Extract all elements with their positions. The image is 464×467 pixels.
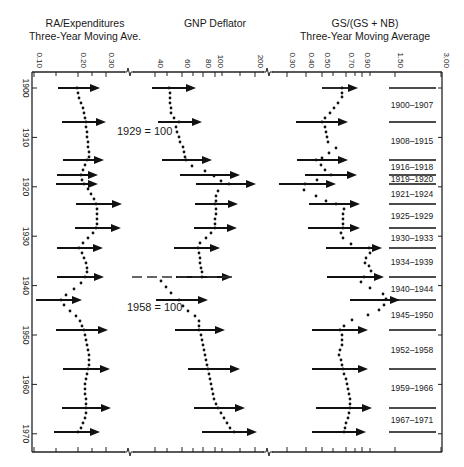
gs-ratio-point: [342, 368, 345, 371]
arrowhead-icon: [230, 365, 240, 373]
gnp-deflator-point: [199, 242, 202, 245]
ra-expenditure-point: [85, 407, 88, 410]
arrowhead-icon: [186, 84, 196, 92]
ra-expenditure-point: [77, 92, 80, 95]
gnp-deflator-point: [203, 349, 206, 352]
gnp-deflator-point: [198, 325, 201, 328]
gs-ratio-point: [345, 422, 348, 425]
gnp-deflator-point: [206, 364, 209, 367]
ra-expenditure-point: [88, 156, 91, 159]
arrowhead-icon: [192, 118, 202, 126]
gnp-deflator-point: [212, 393, 215, 396]
gnp-deflator-point: [204, 170, 207, 173]
gnp-deflator-point: [215, 403, 218, 406]
gs-ratio-point: [368, 247, 371, 250]
gs-ratio-point: [383, 304, 386, 307]
y-tick-label: 1900: [21, 79, 31, 98]
gnp-deflator-point: [211, 388, 214, 391]
gs-ratio-point: [304, 183, 307, 186]
ra-expenditure-point: [84, 117, 87, 120]
gnp-deflator-point: [185, 159, 188, 162]
gs-ratio-point: [349, 403, 352, 406]
arrowhead-icon: [198, 296, 208, 304]
gs-ratio-point: [343, 431, 346, 434]
gs-ratio-point: [346, 383, 349, 386]
gs-ratio-point: [341, 339, 344, 342]
x-tick-label: 0.40: [307, 52, 316, 68]
ra-expenditure-point: [86, 267, 89, 270]
gnp-deflator-point: [178, 121, 181, 124]
y-tick-label: 1910: [21, 128, 31, 147]
arrowhead-icon: [326, 180, 336, 188]
x-tick-label: 0.30: [107, 52, 116, 68]
arrowhead-icon: [350, 224, 360, 232]
ra-expenditure-point: [83, 257, 86, 260]
ra-expenditure-point: [82, 422, 85, 425]
gnp-deflator-point: [165, 286, 168, 289]
ra-expenditure-point: [87, 188, 90, 191]
ra-expenditure-point: [85, 339, 88, 342]
ra-expenditure-point: [88, 359, 91, 362]
arrowhead-icon: [338, 118, 348, 126]
gnp-deflator-point: [169, 92, 172, 95]
gnp-deflator-point: [170, 112, 173, 115]
gs-ratio-point: [342, 218, 345, 221]
ra-expenditure-point: [82, 242, 85, 245]
arrowhead-icon: [348, 84, 358, 92]
period-label: 1916–1918: [391, 162, 434, 172]
gnp-deflator-point: [173, 117, 176, 120]
gs-ratio-point: [369, 252, 372, 255]
ra-expenditure-point: [86, 131, 89, 134]
gs-ratio-point: [360, 281, 363, 284]
gs-ratio-point: [333, 107, 336, 110]
arrowhead-icon: [210, 244, 220, 252]
y-tick-label: 1920: [21, 177, 31, 196]
ra-expenditure-point: [83, 329, 86, 332]
x-tick-label: 1.50: [396, 52, 405, 68]
arrowhead-icon: [230, 171, 240, 179]
arrowhead-icon: [112, 200, 122, 208]
arrowhead-icon: [374, 273, 384, 281]
gnp-deflator-point: [214, 203, 217, 206]
period-label: 1934–1939: [391, 257, 434, 267]
gs-ratio-point: [329, 112, 332, 115]
gnp-deflator-point: [215, 200, 218, 203]
gnp-deflator-point: [214, 218, 217, 221]
period-label: 1919–1920: [391, 174, 434, 184]
arrowhead-icon: [247, 428, 257, 436]
arrowhead-icon: [227, 224, 237, 232]
gnp-deflator-point: [183, 151, 186, 154]
ra-expenditure-point: [85, 398, 88, 401]
arrowhead-icon: [358, 326, 368, 334]
gs-ratio-point: [369, 287, 372, 290]
gnp-deflator-point: [184, 156, 187, 159]
gs-ratio-point: [330, 174, 333, 177]
gnp-deflator-point: [215, 213, 218, 216]
gnp-deflator-point: [168, 87, 171, 90]
x-tick-label: 80: [204, 59, 213, 68]
gnp-deflator-point: [200, 267, 203, 270]
gnp-deflator-point: [197, 247, 200, 250]
period-label: 1925–1929: [391, 211, 434, 221]
gs-ratio-point: [342, 237, 345, 240]
gnp-deflator-point: [209, 378, 212, 381]
gs-ratio-point: [364, 262, 367, 265]
gnp-deflator-point: [213, 398, 216, 401]
period-label: 1900–1907: [391, 100, 434, 110]
ra-expenditure-point: [90, 193, 93, 196]
gnp-deflator-point: [226, 422, 229, 425]
x-tick-label: 0.70: [347, 52, 356, 68]
arrowhead-icon: [356, 428, 366, 436]
gs-ratio-point: [342, 223, 345, 226]
arrowhead-icon: [362, 404, 372, 412]
gnp-deflator-point: [169, 102, 172, 105]
arrowhead-icon: [372, 244, 382, 252]
y-tick-label: 1960: [21, 375, 31, 394]
ra-expenditure-point: [69, 310, 72, 313]
arrowhead-icon: [88, 171, 98, 179]
ra-expenditure-point: [81, 252, 84, 255]
arrowhead-icon: [98, 326, 108, 334]
ra-expenditure-point: [65, 294, 68, 297]
gs-ratio-point: [344, 427, 347, 430]
arrowhead-icon: [90, 84, 100, 92]
